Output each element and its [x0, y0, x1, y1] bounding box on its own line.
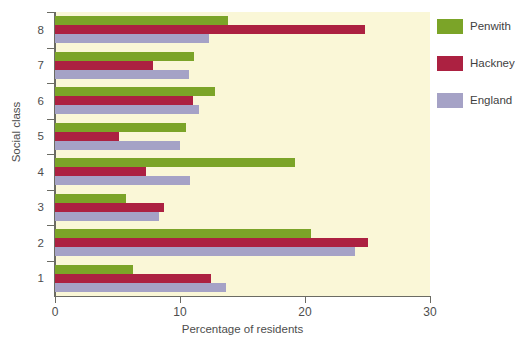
y-tick-label-2: 2 [26, 237, 44, 249]
bar-penwith-class-1 [55, 265, 133, 274]
x-axis-line [54, 296, 431, 298]
x-tick-label-30: 30 [423, 305, 436, 319]
y-tick-mark [47, 83, 54, 84]
y-tick-label-4: 4 [26, 166, 44, 178]
y-tick-mark [47, 154, 54, 155]
y-tick-mark [47, 190, 54, 191]
y-tick-label-7: 7 [26, 59, 44, 71]
legend-label-penwith: Penwith [470, 20, 511, 32]
bar-england-class-4 [55, 176, 190, 185]
y-tick-label-6: 6 [26, 95, 44, 107]
x-axis-title: Percentage of residents [55, 323, 430, 335]
bar-england-class-6 [55, 105, 199, 114]
bar-hackney-class-4 [55, 167, 146, 176]
x-tick-mark [305, 296, 306, 303]
y-tick-label-8: 8 [26, 24, 44, 36]
bar-england-class-3 [55, 212, 159, 221]
bar-penwith-class-2 [55, 229, 311, 238]
bar-penwith-class-4 [55, 158, 295, 167]
x-tick-mark [430, 296, 431, 303]
x-tick-label-10: 10 [173, 305, 186, 319]
x-tick-mark [55, 296, 56, 303]
y-tick-mark [47, 119, 54, 120]
legend-item-england: England [437, 92, 515, 108]
y-tick-label-1: 1 [26, 272, 44, 284]
bar-penwith-class-6 [55, 87, 215, 96]
legend-item-penwith: Penwith [437, 18, 515, 34]
bar-penwith-class-8 [55, 16, 228, 25]
legend-swatch-england [437, 93, 463, 108]
bar-penwith-class-3 [55, 194, 126, 203]
y-tick-mark [47, 12, 54, 13]
bar-penwith-class-5 [55, 123, 186, 132]
bar-england-class-7 [55, 70, 189, 79]
bar-penwith-class-7 [55, 52, 194, 61]
x-tick-label-0: 0 [52, 305, 59, 319]
x-tick-label-20: 20 [298, 305, 311, 319]
bar-england-class-1 [55, 283, 226, 292]
bar-england-class-5 [55, 141, 180, 150]
y-tick-label-5: 5 [26, 130, 44, 142]
y-axis-title: Social class [10, 72, 22, 192]
legend-item-hackney: Hackney [437, 55, 515, 71]
legend-label-hackney: Hackney [470, 57, 515, 69]
bar-hackney-class-8 [55, 25, 365, 34]
legend: PenwithHackneyEngland [437, 18, 515, 129]
y-tick-label-3: 3 [26, 201, 44, 213]
bar-hackney-class-7 [55, 61, 153, 70]
y-tick-mark [47, 225, 54, 226]
bar-england-class-8 [55, 34, 209, 43]
bar-hackney-class-2 [55, 238, 368, 247]
y-tick-mark [47, 261, 54, 262]
legend-swatch-hackney [437, 56, 463, 71]
x-tick-mark [180, 296, 181, 303]
bar-hackney-class-6 [55, 96, 193, 105]
legend-label-england: England [470, 94, 512, 106]
bar-hackney-class-1 [55, 274, 211, 283]
bar-hackney-class-3 [55, 203, 164, 212]
legend-swatch-penwith [437, 19, 463, 34]
y-tick-mark [47, 48, 54, 49]
bar-hackney-class-5 [55, 132, 119, 141]
bar-england-class-2 [55, 247, 355, 256]
